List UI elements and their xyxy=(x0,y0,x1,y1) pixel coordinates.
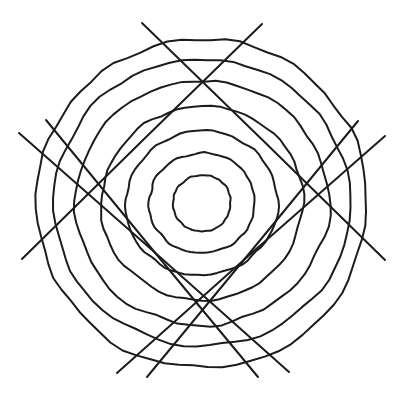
concentric-circle-chord-figure xyxy=(0,0,404,396)
